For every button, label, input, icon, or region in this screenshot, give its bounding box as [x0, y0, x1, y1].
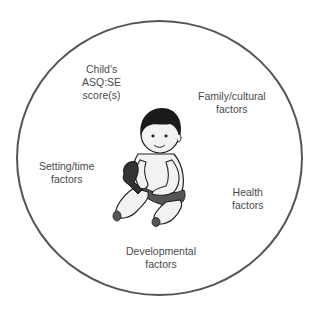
- label-health: Health factors: [232, 186, 264, 212]
- label-line: Child's: [82, 63, 121, 76]
- label-line: Setting/time: [39, 160, 94, 173]
- label-line: factors: [126, 258, 196, 271]
- label-line: factors: [39, 173, 94, 186]
- diagram-canvas: Child's ASQ:SE score(s) Family/cultural …: [0, 0, 317, 311]
- label-family-cultural: Family/cultural factors: [198, 90, 266, 116]
- label-asqse-scores: Child's ASQ:SE score(s): [82, 63, 121, 102]
- seated-baby-icon: [108, 104, 204, 228]
- label-line: factors: [232, 199, 264, 212]
- label-line: Developmental: [126, 245, 196, 258]
- label-developmental: Developmental factors: [126, 245, 196, 271]
- label-line: Health: [232, 186, 264, 199]
- label-line: factors: [198, 103, 266, 116]
- label-line: score(s): [82, 89, 121, 102]
- label-setting-time: Setting/time factors: [39, 160, 94, 186]
- label-line: ASQ:SE: [82, 76, 121, 89]
- label-line: Family/cultural: [198, 90, 266, 103]
